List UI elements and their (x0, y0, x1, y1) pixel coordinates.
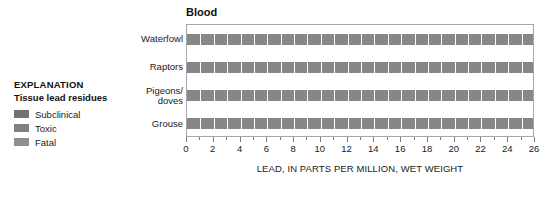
legend-item-label: Toxic (35, 123, 57, 134)
x-axis-tick-label: 16 (395, 143, 406, 154)
y-axis-label: Raptors (150, 62, 183, 72)
x-axis-tick (534, 137, 535, 142)
legend-item: Toxic (14, 121, 134, 135)
gridline (281, 25, 282, 136)
x-axis-tick-label: 20 (448, 143, 459, 154)
gridline (294, 25, 295, 136)
y-axis-category-labels: WaterfowlRaptorsPigeons/ dovesGrouse (123, 25, 183, 138)
x-axis-tick (240, 137, 241, 142)
x-axis-minor-tick (253, 137, 254, 140)
legend-title: EXPLANATION (14, 78, 134, 91)
gridline (200, 25, 201, 136)
x-axis-tick-label: 4 (237, 143, 242, 154)
chart-title: Blood (186, 6, 536, 19)
x-axis-tick-label: 6 (264, 143, 269, 154)
gridline (495, 25, 496, 136)
y-axis-label: Grouse (152, 119, 183, 129)
x-axis-tick (347, 137, 348, 142)
x-axis-tick (507, 137, 508, 142)
plot-frame: WaterfowlRaptorsPigeons/ dovesGrouse (186, 24, 534, 137)
gridline (254, 25, 255, 136)
gridline (361, 25, 362, 136)
x-axis-minor-tick (306, 137, 307, 140)
gridline (374, 25, 375, 136)
gridline (522, 25, 523, 136)
legend-item-label: Subclinical (35, 109, 80, 120)
x-axis-minor-tick (467, 137, 468, 140)
gridline (481, 25, 482, 136)
x-axis-tick-label: 0 (183, 143, 188, 154)
x-axis-tick (373, 137, 374, 142)
x-axis-tick-label: 8 (290, 143, 295, 154)
gridline (227, 25, 228, 136)
x-axis-tick-label: 26 (529, 143, 540, 154)
legend-item-label: Fatal (35, 137, 56, 148)
x-axis-tick (186, 137, 187, 142)
legend-swatch-toxic (14, 124, 29, 132)
chart-container: Blood WaterfowlRaptorsPigeons/ dovesGrou… (186, 6, 536, 174)
x-axis: 02468101214161820222426 (186, 137, 534, 159)
gridline (321, 25, 322, 136)
legend-swatch-subclinical (14, 110, 29, 118)
x-axis-minor-tick (414, 137, 415, 140)
x-axis-tick (266, 137, 267, 142)
gridline (334, 25, 335, 136)
x-axis-minor-tick (226, 137, 227, 140)
legend-item: Fatal (14, 135, 134, 149)
x-axis-minor-tick (360, 137, 361, 140)
x-axis-tick-label: 12 (341, 143, 352, 154)
gridline (468, 25, 469, 136)
x-axis-tick-label: 2 (210, 143, 215, 154)
x-axis-tick (400, 137, 401, 142)
gridline (428, 25, 429, 136)
y-axis-label: Waterfowl (141, 34, 183, 44)
x-axis-tick-label: 22 (475, 143, 486, 154)
x-axis-minor-tick (440, 137, 441, 140)
gridline (267, 25, 268, 136)
x-axis-minor-tick (521, 137, 522, 140)
x-axis-minor-tick (280, 137, 281, 140)
y-axis-label: Pigeons/ doves (146, 86, 183, 106)
plot-area (187, 25, 533, 136)
gridline (241, 25, 242, 136)
explanation-legend: EXPLANATION Tissue lead residues Subclin… (14, 78, 134, 149)
x-axis-tick (320, 137, 321, 142)
x-axis-tick (454, 137, 455, 142)
x-axis-tick (427, 137, 428, 142)
x-axis-tick (293, 137, 294, 142)
x-axis-minor-tick (333, 137, 334, 140)
gridline (441, 25, 442, 136)
x-axis-minor-tick (494, 137, 495, 140)
x-axis-tick-label: 14 (368, 143, 379, 154)
gridline (455, 25, 456, 136)
gridline (214, 25, 215, 136)
x-axis-tick-label: 18 (422, 143, 433, 154)
gridline (401, 25, 402, 136)
gridline (508, 25, 509, 136)
gridline (388, 25, 389, 136)
gridline (348, 25, 349, 136)
gridline (307, 25, 308, 136)
x-axis-minor-tick (199, 137, 200, 140)
x-axis-tick (213, 137, 214, 142)
legend-item-list: SubclinicalToxicFatal (14, 107, 134, 149)
x-axis-tick-label: 24 (502, 143, 513, 154)
gridline (415, 25, 416, 136)
legend-subtitle: Tissue lead residues (14, 91, 134, 105)
x-axis-title: LEAD, IN PARTS PER MILLION, WET WEIGHT (186, 163, 534, 174)
legend-swatch-fatal (14, 138, 29, 146)
x-axis-minor-tick (387, 137, 388, 140)
x-axis-tick-label: 10 (315, 143, 326, 154)
legend-item: Subclinical (14, 107, 134, 121)
x-axis-tick (480, 137, 481, 142)
